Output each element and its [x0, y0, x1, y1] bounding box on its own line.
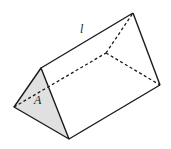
prism-diagram: l A [0, 0, 171, 149]
visible-edges [14, 13, 160, 139]
front-face-shaded [14, 68, 69, 139]
area-label: A [33, 93, 42, 107]
length-label: l [80, 22, 84, 36]
